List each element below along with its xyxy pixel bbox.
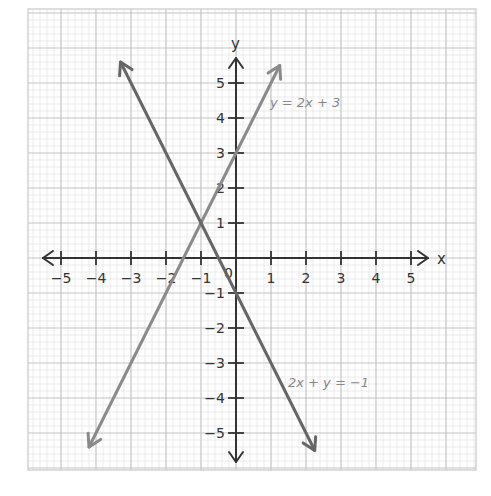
y-tick-label: −5 [204,425,225,441]
x-tick-label: 1 [267,270,276,286]
major-grid [28,9,476,470]
line-label-y-equals-2x-plus-3: y = 2x + 3 [269,95,340,110]
y-tick-label: −2 [204,320,225,336]
y-axis-label: y [231,35,240,53]
x-tick-label: −5 [51,270,72,286]
minor-grid [28,9,476,470]
y-tick-label: 3 [216,145,225,161]
coordinate-plane: −5−4−3−2−112345−5−4−3−2−112345 x y 0 y =… [0,0,491,496]
x-tick-label: −3 [121,270,142,286]
y-tick-label: 1 [216,215,225,231]
y-tick-label: −3 [204,355,225,371]
y-tick-label: −4 [204,390,225,406]
line-label-2x-plus-y-equals-minus-1: 2x + y = −1 [288,375,369,390]
x-tick-label: −4 [86,270,107,286]
y-tick-label: 4 [216,110,225,126]
y-tick-label: 5 [216,75,225,91]
x-axis-label: x [437,250,446,268]
x-tick-label: 2 [302,270,311,286]
x-tick-label: −1 [191,270,212,286]
x-tick-label: 3 [337,270,346,286]
x-tick-label: 5 [407,270,416,286]
y-tick-label: −1 [204,285,225,301]
x-tick-label: 4 [372,270,381,286]
grid-border [28,9,476,470]
series-line-1 [89,66,280,448]
